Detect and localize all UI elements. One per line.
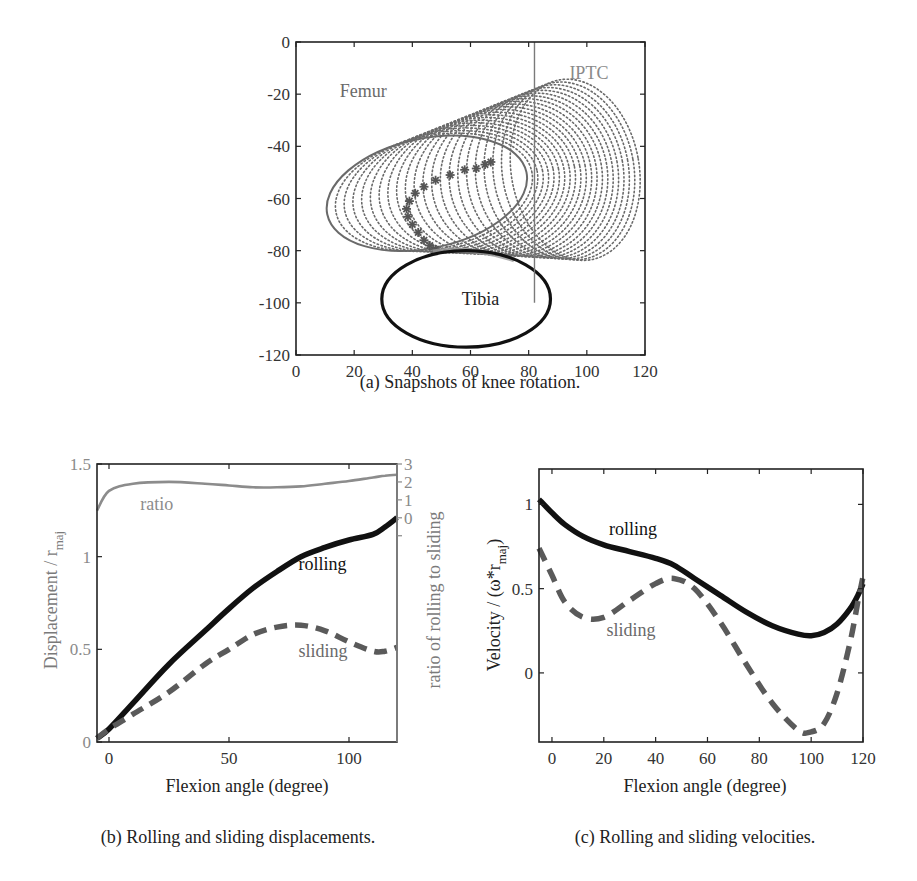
iptc-label: IPTC — [569, 63, 608, 83]
x-tick-label: 80 — [751, 749, 768, 768]
panel-c-y-axis-title-main: Velocity / (ω*r — [484, 564, 505, 671]
rolling-label: rolling — [299, 554, 347, 574]
y-tick-label: -40 — [267, 137, 290, 156]
contact-star-marker — [446, 171, 455, 180]
y-tick-label: -20 — [267, 85, 290, 104]
panel-c-series-labels: rollingsliding — [606, 519, 657, 640]
y-tick-label: 1.5 — [70, 455, 91, 474]
y-tick-label: -100 — [259, 294, 290, 313]
panel-b-right-y-ticks: 0123 — [397, 455, 413, 536]
contact-star-marker — [414, 228, 423, 237]
right-y-tick-label: 0 — [404, 509, 413, 528]
sliding-line — [539, 548, 863, 733]
y-tick-label: 0 — [83, 733, 92, 752]
rolling-label: rolling — [609, 519, 657, 539]
y-tick-label: 0 — [282, 33, 291, 52]
y-tick-label: 0.5 — [512, 580, 533, 599]
contact-star-marker — [472, 164, 481, 173]
panel-c-x-axis-title: Flexion angle (degree) — [624, 776, 787, 797]
y-tick-label: 1 — [83, 548, 92, 567]
x-tick-label: 100 — [336, 749, 362, 768]
x-tick-label: 20 — [595, 749, 612, 768]
sliding-line — [97, 625, 397, 738]
x-tick-label: 40 — [647, 749, 664, 768]
figure-canvas: 020406080100120 0-20-40-60-80-100-120 Fe… — [0, 0, 917, 881]
caption-c: (c) Rolling and sliding velocities. — [575, 827, 815, 848]
contact-star-marker — [402, 204, 411, 213]
y-tick-label: 0.5 — [70, 640, 91, 659]
y-tick-label: -80 — [267, 242, 290, 261]
panel-c-velocities: 020406080100120 00.51 rollingsliding Fle… — [484, 469, 876, 848]
y-tick-label: -120 — [259, 346, 290, 365]
panel-b-y-axis-title-main: Displacement / r — [41, 550, 61, 669]
panel-c-plot-lines — [539, 499, 863, 733]
panel-a-knee-rotation: 020406080100120 0-20-40-60-80-100-120 Fe… — [259, 33, 658, 393]
panel-b-displacements: 050100 00.511.5 0123 ratiorollingsliding… — [41, 455, 444, 848]
x-tick-label: 120 — [850, 749, 876, 768]
right-y-tick-label: 2 — [404, 473, 413, 492]
panel-b-y-axis-title: Displacement / rmaj — [41, 531, 66, 669]
contact-star-marker — [408, 220, 417, 229]
femur-label: Femur — [340, 81, 387, 101]
panel-c-y-axis-title-tail: ) — [484, 539, 505, 545]
panel-c-y-axis-title-sub: maj — [494, 545, 509, 565]
panel-b-x-axis-title: Flexion angle (degree) — [166, 776, 329, 797]
rolling-line — [539, 499, 863, 636]
panel-b-series-labels: ratiorollingsliding — [140, 494, 347, 660]
femur-snapshot-contour — [453, 81, 627, 270]
right-y-tick-label: 3 — [404, 455, 413, 474]
ratio-label: ratio — [140, 494, 173, 514]
contact-star-marker — [481, 160, 490, 169]
y-tick-label: -60 — [267, 190, 290, 209]
x-tick-label: 100 — [798, 749, 824, 768]
sliding-label: sliding — [606, 620, 655, 640]
contact-star-marker — [431, 176, 440, 185]
right-y-tick-label: 1 — [404, 491, 413, 510]
contact-star-marker — [419, 182, 428, 191]
panel-b-y-axis-title-sub: maj — [51, 531, 66, 551]
contact-star-marker — [405, 197, 414, 206]
x-tick-label: 0 — [548, 749, 557, 768]
panel-b-right-axis-title: ratio of rolling to sliding — [424, 512, 444, 689]
caption-a: (a) Snapshots of knee rotation. — [360, 372, 580, 393]
sliding-label: sliding — [299, 641, 348, 661]
y-tick-label: 1 — [525, 495, 534, 514]
panel-c-y-axis-title: Velocity / (ω*rmaj) — [484, 539, 509, 671]
panel-c-axes-box — [539, 469, 863, 742]
x-tick-label: 0 — [105, 749, 114, 768]
x-tick-label: 120 — [632, 362, 658, 381]
caption-b: (b) Rolling and sliding displacements. — [101, 827, 375, 848]
rolling-line — [97, 518, 397, 739]
x-tick-label: 60 — [699, 749, 716, 768]
contact-star-marker — [411, 189, 420, 198]
x-tick-label: 0 — [292, 362, 301, 381]
tibia-label: Tibia — [462, 289, 499, 309]
y-tick-label: 0 — [525, 664, 534, 683]
contact-star-marker — [403, 212, 412, 221]
x-tick-label: 50 — [221, 749, 238, 768]
contact-star-marker — [460, 165, 469, 174]
